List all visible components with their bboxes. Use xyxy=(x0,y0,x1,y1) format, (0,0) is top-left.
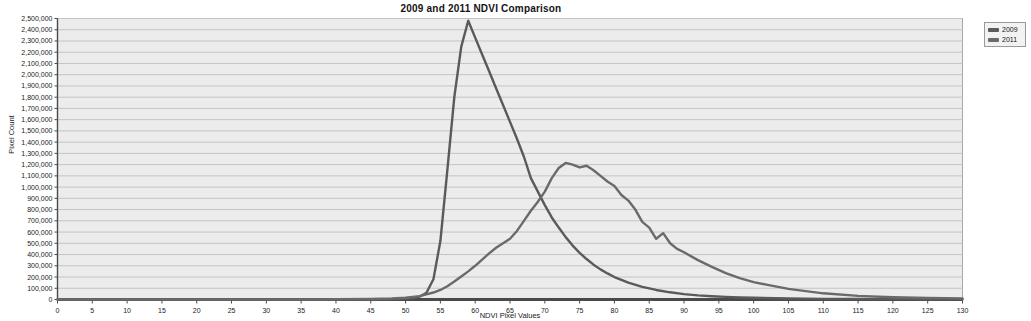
legend-label-2011: 2011 xyxy=(1002,35,1017,45)
x-tick-label: 85 xyxy=(645,307,653,314)
y-tick-label: 2,000,000 xyxy=(21,71,52,78)
x-tick-label: 70 xyxy=(541,307,549,314)
y-tick-label: 1,300,000 xyxy=(21,150,52,157)
x-tick-label: 25 xyxy=(228,307,236,314)
x-tick-label: 75 xyxy=(576,307,584,314)
y-tick-label: 800,000 xyxy=(27,206,52,213)
legend-swatch-2009 xyxy=(988,28,999,32)
y-tick-label: 1,400,000 xyxy=(21,139,52,146)
x-tick-label: 65 xyxy=(506,307,514,314)
x-tick-label: 20 xyxy=(193,307,201,314)
y-tick-label: 0 xyxy=(49,296,53,303)
x-tick-label: 50 xyxy=(402,307,410,314)
x-tick-label: 15 xyxy=(158,307,166,314)
y-tick-label: 1,800,000 xyxy=(21,94,52,101)
y-tick-label: 2,300,000 xyxy=(21,37,52,44)
x-tick-label: 30 xyxy=(262,307,270,314)
y-tick-label: 500,000 xyxy=(27,240,52,247)
y-tick-label: 1,900,000 xyxy=(21,82,52,89)
x-tick-label: 130 xyxy=(957,307,969,314)
x-tick-label: 80 xyxy=(611,307,619,314)
y-tick-label: 200,000 xyxy=(27,274,52,281)
x-tick-label: 55 xyxy=(436,307,444,314)
x-tick-label: 60 xyxy=(471,307,479,314)
y-tick-label: 1,600,000 xyxy=(21,116,52,123)
y-tick-label: 400,000 xyxy=(27,251,52,258)
y-tick-label: 2,100,000 xyxy=(21,60,52,67)
y-tick-label: 2,200,000 xyxy=(21,49,52,56)
x-tick-label: 5 xyxy=(90,307,94,314)
x-tick-label: 40 xyxy=(332,307,340,314)
x-tick-label: 10 xyxy=(123,307,131,314)
y-tick-label: 300,000 xyxy=(27,262,52,269)
x-tick-label: 115 xyxy=(852,307,863,314)
x-tick-label: 110 xyxy=(818,307,829,314)
y-tick-label: 1,100,000 xyxy=(21,172,52,179)
chart-legend: 2009 2011 xyxy=(984,22,1026,47)
y-tick-label: 900,000 xyxy=(27,195,52,202)
x-tick-label: 100 xyxy=(748,307,760,314)
y-tick-label: 1,500,000 xyxy=(21,127,52,134)
y-tick-label: 600,000 xyxy=(27,229,52,236)
x-tick-label: 125 xyxy=(922,307,934,314)
y-tick-label: 100,000 xyxy=(27,285,52,292)
x-tick-label: 105 xyxy=(783,307,795,314)
legend-label-2009: 2009 xyxy=(1002,25,1018,35)
x-tick-label: 90 xyxy=(680,307,688,314)
ndvi-comparison-chart: 2009 and 2011 NDVI Comparison Pixel Coun… xyxy=(0,0,1031,321)
x-tick-label: 120 xyxy=(887,307,899,314)
plot-area: 0100,000200,000300,000400,000500,000600,… xyxy=(0,0,1031,321)
x-tick-label: 35 xyxy=(297,307,305,314)
y-tick-label: 700,000 xyxy=(27,217,52,224)
x-tick-label: 45 xyxy=(367,307,375,314)
y-tick-label: 1,700,000 xyxy=(21,105,52,112)
y-tick-label: 2,500,000 xyxy=(21,15,52,22)
legend-item-2009[interactable]: 2009 xyxy=(988,25,1022,35)
legend-item-2011[interactable]: 2011 xyxy=(988,35,1022,45)
legend-swatch-2011 xyxy=(988,38,999,42)
x-tick-label: 95 xyxy=(715,307,723,314)
x-tick-label: 0 xyxy=(56,307,60,314)
y-tick-label: 1,200,000 xyxy=(21,161,52,168)
y-tick-label: 2,400,000 xyxy=(21,26,52,33)
y-tick-label: 1,000,000 xyxy=(21,184,52,191)
